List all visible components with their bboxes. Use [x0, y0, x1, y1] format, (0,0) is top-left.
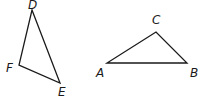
triangle-def-outline: [19, 10, 60, 83]
vertex-label-c: C: [152, 13, 161, 27]
triangle-abc-outline: [107, 32, 187, 63]
vertex-label-f: F: [6, 61, 14, 75]
vertex-label-b: B: [190, 66, 198, 80]
vertex-label-d: D: [28, 0, 37, 12]
vertex-label-a: A: [95, 66, 104, 80]
triangle-abc: A B C: [95, 13, 198, 80]
vertex-label-e: E: [58, 85, 66, 98]
triangles-diagram: D E F A B C: [0, 0, 207, 98]
triangle-def: D E F: [6, 0, 66, 98]
